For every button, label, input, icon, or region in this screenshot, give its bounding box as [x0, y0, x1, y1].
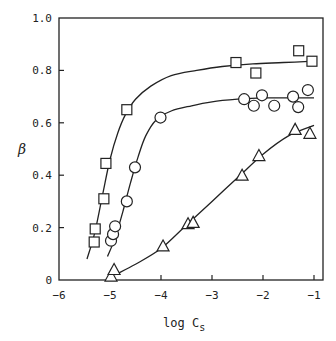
circle-marker — [129, 162, 140, 173]
triangle-marker — [108, 264, 120, 275]
x-tick-label: −4 — [154, 289, 168, 302]
square-marker — [251, 68, 261, 78]
circle-marker — [288, 91, 299, 102]
square-marker — [294, 46, 304, 56]
x-tick-label: −2 — [256, 289, 269, 302]
x-axis-ticks: −6−5−4−3−2−1 — [52, 275, 320, 302]
y-tick-label: 0.6 — [32, 117, 52, 130]
x-axis-label: log Cs — [163, 316, 205, 333]
fit-curves — [87, 61, 314, 275]
circle-marker — [239, 94, 250, 105]
square-marker — [231, 58, 241, 68]
x-axis-label-main: log C — [163, 316, 199, 330]
triangle-marker — [253, 150, 265, 161]
x-tick-label: −3 — [205, 289, 218, 302]
square-marker — [89, 237, 99, 247]
x-tick-label: −6 — [52, 289, 65, 302]
y-tick-label: 0.8 — [32, 64, 52, 77]
circle-marker — [121, 196, 132, 207]
triangle-marker — [236, 169, 248, 180]
circle-marker — [248, 100, 259, 111]
chart: 00.20.40.60.81.0 −6−5−4−3−2−1 β log Cs — [0, 0, 336, 341]
x-tick-label: −1 — [307, 289, 320, 302]
y-tick-label: 0.4 — [32, 169, 52, 182]
circle-marker — [293, 102, 304, 113]
square-marker — [122, 105, 132, 115]
fit-curve-squares — [87, 61, 314, 259]
triangle-marker — [289, 123, 301, 134]
circle-marker — [110, 221, 121, 232]
x-tick-label: −5 — [103, 289, 116, 302]
y-tick-label: 0 — [45, 274, 52, 287]
circle-marker — [155, 112, 166, 123]
y-tick-label: 0.2 — [32, 222, 52, 235]
data-points — [89, 46, 317, 281]
y-tick-label: 1.0 — [32, 12, 52, 25]
square-marker — [307, 56, 317, 66]
circle-marker — [269, 100, 280, 111]
square-marker — [101, 158, 111, 168]
fit-curve-circles — [108, 98, 315, 257]
y-axis-label: β — [17, 141, 26, 157]
square-marker — [90, 224, 100, 234]
triangle-marker — [157, 240, 169, 251]
fit-curve-triangles — [115, 125, 314, 274]
circle-marker — [256, 90, 267, 101]
square-marker — [99, 194, 109, 204]
x-axis-label-subscript: s — [199, 322, 205, 333]
circle-marker — [302, 85, 313, 96]
